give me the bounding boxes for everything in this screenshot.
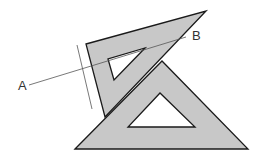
diagram-canvas [0,0,256,164]
label-point-b: B [192,29,201,42]
label-point-a: A [18,79,27,92]
